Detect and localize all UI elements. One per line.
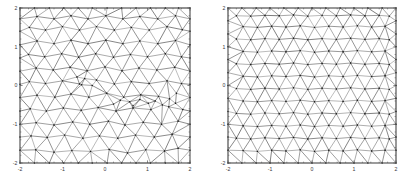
right-mesh-edges: [228, 8, 396, 163]
x-tick-label: -1: [268, 166, 273, 172]
x-tick-label: 2: [189, 166, 192, 172]
left-axis-tick-labels: -2-1012-2-1012: [13, 5, 192, 172]
y-tick-label: 2: [223, 5, 226, 11]
y-tick-label: -2: [221, 160, 226, 166]
left-mesh-svg: -2-1012-2-1012: [0, 0, 205, 189]
y-tick-label: 1: [15, 44, 18, 50]
right-mesh-svg: -2-1012-2-1012: [205, 0, 410, 189]
y-tick-label: 1: [223, 44, 226, 50]
right-mesh-panel: -2-1012-2-1012: [205, 0, 410, 189]
x-tick-label: 0: [311, 166, 314, 172]
y-tick-label: -2: [13, 160, 18, 166]
y-tick-label: 0: [15, 82, 18, 88]
right-axis-frame: [228, 8, 396, 163]
left-mesh-panel: -2-1012-2-1012: [0, 0, 205, 189]
mesh-comparison-figure: -2-1012-2-1012 -2-1012-2-1012: [0, 0, 410, 189]
y-tick-label: -1: [221, 121, 226, 127]
y-tick-label: -1: [13, 121, 18, 127]
x-tick-label: 1: [353, 166, 356, 172]
x-tick-label: 0: [104, 166, 107, 172]
x-tick-label: -2: [226, 166, 231, 172]
x-tick-label: 1: [146, 166, 149, 172]
x-tick-label: -2: [18, 166, 23, 172]
x-tick-label: -1: [60, 166, 65, 172]
left-mesh-edges: [20, 8, 190, 163]
y-tick-label: 0: [223, 82, 226, 88]
y-tick-label: 2: [15, 5, 18, 11]
x-tick-label: 2: [395, 166, 398, 172]
right-axis-ticks: [228, 8, 396, 163]
